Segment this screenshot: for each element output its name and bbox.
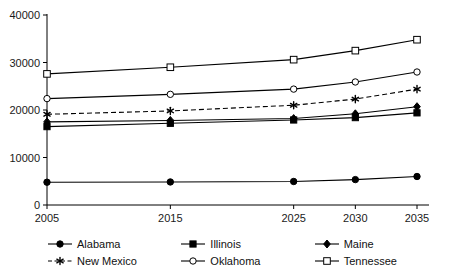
legend-item-illinois[interactable]: Illinois	[180, 236, 313, 252]
series-line	[47, 89, 417, 114]
legend-key-filled-diamond-icon	[314, 238, 340, 250]
data-point-marker	[352, 47, 359, 54]
legend-item-label: Maine	[344, 238, 374, 250]
legend-item-label: Tennessee	[344, 255, 397, 267]
y-axis-tick-label: 20000	[9, 104, 40, 116]
legend-item-maine[interactable]: Maine	[314, 236, 447, 252]
y-axis-tick-label: 30000	[9, 57, 40, 69]
data-point-marker	[167, 64, 174, 71]
x-axis-tick-label: 2005	[35, 212, 59, 224]
legend-key-open-circle-icon	[180, 255, 206, 267]
legend-item-new-mexico[interactable]: New Mexico	[47, 253, 180, 269]
data-point-marker	[44, 71, 51, 78]
data-point-marker	[352, 79, 358, 85]
chart-legend: AlabamaIllinoisMaineNew MexicoOklahomaTe…	[47, 236, 447, 269]
series-line	[47, 72, 417, 99]
series-line	[47, 177, 417, 183]
data-point-marker	[323, 240, 330, 248]
line-chart: 0100002000030000400002005201520252030203…	[0, 0, 459, 276]
y-axis-tick-label: 10000	[9, 152, 40, 164]
data-point-marker	[44, 95, 50, 101]
data-point-marker	[44, 179, 50, 185]
data-point-marker	[290, 86, 296, 92]
legend-key-filled-square-icon	[180, 238, 206, 250]
legend-item-label: New Mexico	[77, 255, 137, 267]
data-point-marker	[290, 56, 297, 63]
legend-key-filled-circle-icon	[47, 238, 73, 250]
series-tennessee	[44, 36, 421, 77]
data-point-marker	[190, 258, 196, 264]
data-point-marker	[57, 241, 63, 247]
legend-item-tennessee[interactable]: Tennessee	[314, 253, 447, 269]
legend-item-oklahoma[interactable]: Oklahoma	[180, 253, 313, 269]
data-point-marker	[167, 91, 173, 97]
series-line	[47, 40, 417, 74]
legend-item-label: Oklahoma	[210, 255, 260, 267]
legend-item-label: Illinois	[210, 238, 241, 250]
chart-plot-area: 0100002000030000400002005201520252030203…	[0, 0, 459, 276]
series-oklahoma	[44, 69, 420, 102]
series-alabama	[44, 173, 420, 185]
x-axis-tick-label: 2035	[405, 212, 429, 224]
data-point-marker	[414, 173, 420, 179]
x-axis-tick-label: 2015	[158, 212, 182, 224]
data-point-marker	[414, 69, 420, 75]
y-axis-tick-label: 40000	[9, 9, 40, 21]
legend-item-alabama[interactable]: Alabama	[47, 236, 180, 252]
data-point-marker	[167, 179, 173, 185]
legend-key-open-square-icon	[314, 255, 340, 267]
data-point-marker	[190, 241, 196, 247]
x-axis-tick-label: 2030	[343, 212, 367, 224]
data-point-marker	[323, 258, 330, 265]
series-line	[47, 107, 417, 122]
series-maine	[44, 103, 421, 126]
legend-key-asterisk-icon	[47, 255, 73, 267]
y-axis-tick-label: 0	[34, 199, 40, 211]
data-point-marker	[290, 178, 296, 184]
data-point-marker	[414, 36, 421, 43]
legend-item-label: Alabama	[77, 238, 120, 250]
x-axis-tick-label: 2025	[281, 212, 305, 224]
data-point-marker	[352, 176, 358, 182]
